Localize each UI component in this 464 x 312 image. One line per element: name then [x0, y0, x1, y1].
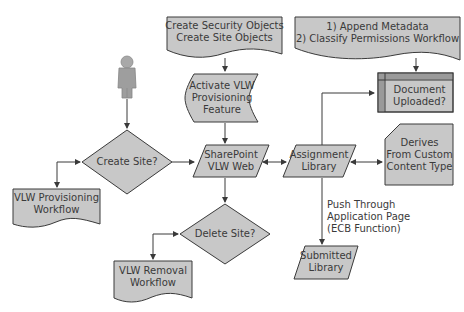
vlw-provisioning-workflow-label: VLW Provisioning Workflow	[13, 190, 100, 218]
assignment-library-label: Assignment Library	[288, 148, 350, 174]
custom-content-type-label: Derives From Custom Content Type	[386, 134, 453, 176]
create-site-label: Create Site?	[92, 152, 162, 172]
person-icon	[118, 56, 136, 98]
submitted-library-label: Submitted Library	[298, 249, 354, 275]
delete-site-label: Delete Site?	[190, 224, 260, 244]
sharepoint-web-label: SharePoint VLW Web	[200, 148, 262, 174]
metadata-workflow-label: 1) Append Metadata 2) Classify Permissio…	[295, 20, 460, 46]
push-through-edge-label: Push Through Application Page (ECB Funct…	[327, 199, 410, 235]
vlw-removal-workflow-label: VLW Removal Workflow	[114, 263, 192, 291]
document-uploaded-label: Document Uploaded?	[386, 81, 453, 111]
activate-feature-label: Activate VLW Provisioning Feature	[188, 78, 256, 118]
create-objects-label: Create Security Objects Create Site Obje…	[167, 19, 282, 45]
